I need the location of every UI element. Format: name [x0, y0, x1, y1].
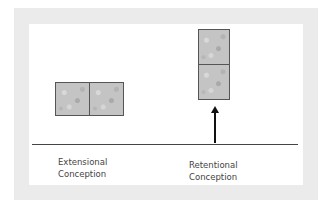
retentional-label-line2: Conception: [189, 171, 238, 183]
extensional-tile-left: [55, 82, 90, 116]
arrow-shaft: [214, 112, 216, 143]
retentional-tile-top: [198, 29, 230, 65]
extensional-tile-right: [89, 82, 124, 116]
extensional-label: Extensional Conception: [58, 156, 107, 180]
extensional-label-line1: Extensional: [58, 156, 107, 168]
retentional-label: Retentional Conception: [189, 159, 238, 183]
retentional-label-line1: Retentional: [189, 159, 238, 171]
retentional-tile-bottom: [198, 64, 230, 100]
baseline: [32, 144, 298, 145]
extensional-label-line2: Conception: [58, 168, 107, 180]
